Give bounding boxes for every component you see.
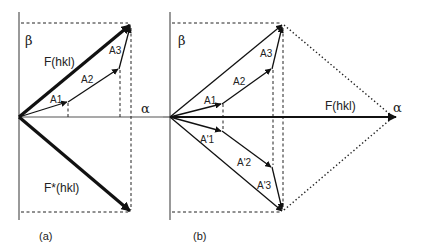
dotted-lower-b: [284, 118, 392, 210]
vector-Fstar-a: [19, 117, 130, 211]
panel-b: β α F(hkl) A1 A2 A3 A'1 A'2 A'3 (b): [163, 12, 402, 242]
beta-label-b: β: [178, 33, 186, 48]
label-Fstar-a: F*(hkl): [44, 181, 79, 195]
label-F-b: F(hkl): [325, 99, 356, 113]
vector-A3-b: [272, 27, 282, 69]
vector-F-upper-b: [170, 25, 282, 117]
label-A2-a: A2: [81, 74, 94, 85]
vector-F-a: [19, 25, 130, 117]
panel-a: β α F(hkl) F*(hkl) A1 A2 A3 (a): [19, 12, 163, 242]
label-F-a: F(hkl): [44, 55, 75, 69]
label-A'2-b: A'2: [237, 157, 252, 168]
label-A'3-b: A'3: [257, 180, 272, 191]
vector-F-lower-b: [170, 117, 282, 211]
vector-A'3-b: [272, 167, 282, 209]
beta-label-a: β: [25, 33, 33, 48]
alpha-label-a: α: [141, 101, 150, 116]
label-A3-b: A3: [260, 48, 273, 59]
alpha-label-b: α: [393, 100, 402, 115]
label-A1-b: A1: [204, 95, 217, 106]
caption-b: (b): [193, 230, 206, 242]
structure-factor-diagram: β α F(hkl) F*(hkl) A1 A2 A3 (a): [0, 0, 421, 246]
label-A3-a: A3: [109, 45, 122, 56]
caption-a: (a): [39, 230, 52, 242]
label-A'1-b: A'1: [200, 134, 215, 145]
label-A1-a: A1: [50, 94, 63, 105]
vector-A2-b: [222, 69, 271, 104]
label-A2-b: A2: [233, 76, 246, 87]
